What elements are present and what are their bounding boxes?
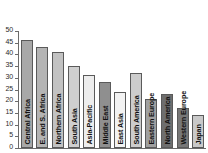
y-tick: 15 (0, 113, 18, 114)
y-tick: 5 (0, 136, 18, 137)
bar-category-label: South America (132, 95, 140, 144)
y-tick-label: 35 (6, 61, 13, 69)
bar-category-label: East Asia (117, 113, 125, 144)
y-tick: 20 (0, 101, 18, 102)
bar-chart: 05101520253035404550 Central AfricaE. an… (0, 0, 208, 153)
bar[interactable]: Eastern Europe (145, 99, 157, 148)
bar-slot: Eastern Europe (144, 0, 160, 148)
y-tick-label: 10 (6, 120, 13, 128)
y-tick-label: 25 (6, 85, 13, 93)
y-tick-label: 50 (6, 26, 13, 34)
bar[interactable]: Western Europe (177, 108, 189, 148)
y-tick-label: 40 (6, 49, 13, 57)
bar-series: Central AfricaE. and S. AfricaNorthern A… (19, 0, 206, 148)
bar-category-label: Central Africa (23, 99, 31, 144)
bar[interactable]: Asia-Pacific (83, 75, 95, 148)
y-tick: 35 (0, 66, 18, 67)
bar[interactable]: Japan (192, 115, 204, 148)
y-tick: 25 (0, 90, 18, 91)
bar-category-label: South Asia (70, 108, 78, 144)
bar-slot: South Asia (66, 0, 82, 148)
bar-slot: Western Europe (175, 0, 191, 148)
bar-category-label: Northern Africa (54, 93, 62, 144)
x-axis-line (18, 148, 206, 149)
bar-slot: North America (159, 0, 175, 148)
y-tick: 40 (0, 54, 18, 55)
bar[interactable]: East Asia (114, 92, 126, 148)
bar-category-label: Japan (195, 124, 203, 144)
bar[interactable]: Central Africa (21, 40, 33, 148)
bar[interactable]: E. and S. Africa (36, 47, 48, 148)
y-tick: 45 (0, 43, 18, 44)
bar-slot: Japan (190, 0, 206, 148)
y-axis-ticks: 05101520253035404550 (0, 0, 18, 153)
bar-category-label: North America (163, 96, 171, 144)
bar-slot: Asia-Pacific (81, 0, 97, 148)
y-tick-label: 20 (6, 96, 13, 104)
y-tick: 30 (0, 78, 18, 79)
y-tick-label: 0 (9, 143, 13, 151)
y-tick: 0 (0, 148, 18, 149)
bar-category-label: E. and S. Africa (39, 93, 47, 144)
bar-category-label: Middle East (101, 105, 109, 144)
y-tick-label: 5 (9, 131, 13, 139)
bar[interactable]: Northern Africa (52, 52, 64, 148)
bar[interactable]: South Asia (68, 66, 80, 148)
bar-slot: South America (128, 0, 144, 148)
bar-slot: Central Africa (19, 0, 35, 148)
bar[interactable]: Middle East (99, 82, 111, 148)
bar-category-label: Eastern Europe (148, 92, 156, 144)
bar-category-label: Asia-Pacific (86, 104, 94, 144)
bar-slot: E. and S. Africa (35, 0, 51, 148)
bar-slot: Middle East (97, 0, 113, 148)
bar-slot: East Asia (112, 0, 128, 148)
y-tick-label: 15 (6, 108, 13, 116)
bar-category-label: Western Europe (179, 90, 187, 144)
bar[interactable]: North America (161, 94, 173, 148)
y-tick-label: 30 (6, 73, 13, 81)
y-tick: 50 (0, 31, 18, 32)
bar[interactable]: South America (130, 73, 142, 148)
bar-slot: Northern Africa (50, 0, 66, 148)
y-tick: 10 (0, 125, 18, 126)
y-tick-label: 45 (6, 38, 13, 46)
